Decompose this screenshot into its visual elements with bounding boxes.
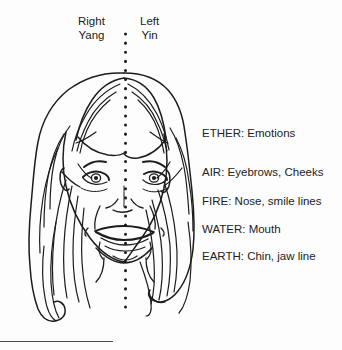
label-right-yang-line2: Yang [78, 29, 105, 43]
label-right-yang: Right Yang [78, 15, 105, 42]
face-diagram: Right Yang Left Yin ETHER: Emotions AIR:… [0, 0, 342, 350]
label-left-yin: Left Yin [140, 15, 159, 42]
mouth [95, 226, 154, 251]
element-label-air: AIR: Eyebrows, Cheeks [202, 166, 323, 179]
element-label-water: WATER: Mouth [202, 223, 281, 236]
hair-strands-left [40, 84, 120, 321]
element-label-earth: EARTH: Chin, jaw line [202, 250, 316, 263]
label-left-yin-line2: Yin [140, 29, 159, 43]
footer-divider [0, 341, 113, 342]
label-right-yang-line1: Right [78, 15, 105, 29]
element-label-fire: FIRE: Nose, smile lines [202, 195, 322, 208]
nose [106, 186, 143, 212]
label-left-yin-line1: Left [140, 15, 159, 29]
element-label-ether: ETHER: Emotions [202, 127, 295, 140]
